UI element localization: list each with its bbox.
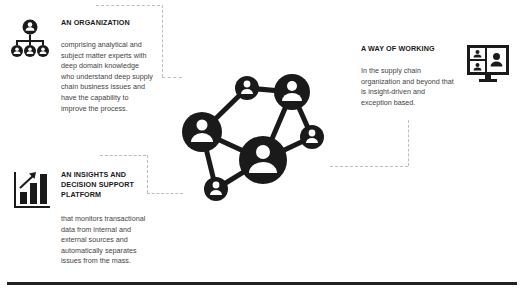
way-of-working-description: In the supply chain organization and bey… — [361, 66, 457, 108]
way-of-working-title: A WAY OF WORKING — [361, 44, 471, 54]
connector-org-vertical — [162, 5, 163, 77]
connector-platform-top — [100, 155, 146, 156]
bottom-divider — [7, 282, 517, 285]
connector-platform-bottom — [147, 193, 183, 194]
connector-wow-vertical — [408, 120, 409, 166]
platform-icon-wrap — [14, 170, 52, 208]
people-network-wrap — [180, 60, 340, 210]
way-of-working-icon-wrap — [466, 44, 510, 84]
organization-description: comprising analytical and subject matter… — [61, 40, 153, 114]
org-chart-icon — [9, 17, 51, 61]
platform-description: that monitors transactional data from in… — [61, 214, 155, 267]
people-network-icon — [180, 60, 340, 210]
connector-org-bottom — [162, 77, 182, 78]
organization-title: AN ORGANIZATION — [61, 18, 171, 28]
organization-icon-wrap — [9, 17, 51, 61]
connector-platform-vertical — [147, 155, 148, 193]
connector-wow-bottom — [330, 166, 408, 167]
bar-chart-growth-icon — [14, 170, 52, 208]
video-conference-monitor-icon — [466, 44, 510, 84]
platform-title: AN INSIGHTS AND DECISION SUPPORT PLATFOR… — [61, 170, 137, 200]
connector-org-top — [96, 5, 160, 6]
